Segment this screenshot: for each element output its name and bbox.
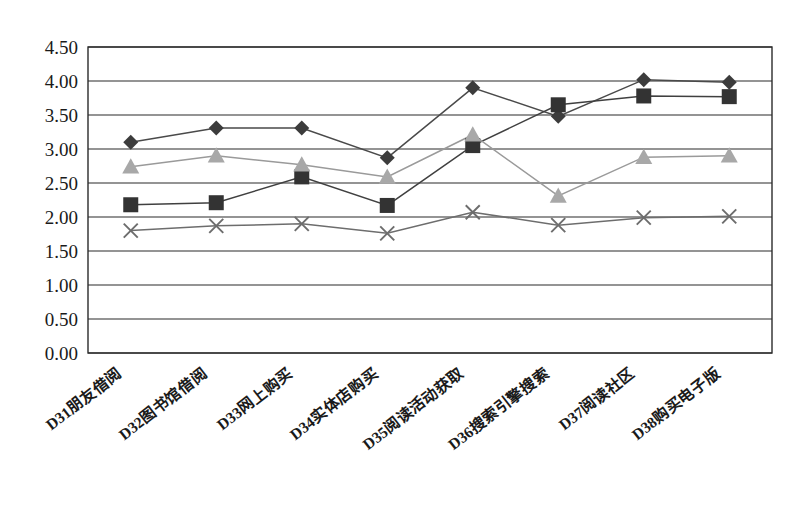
y-tick-label: 4.50 — [45, 37, 78, 58]
data-point-triangle-4 — [464, 126, 481, 141]
data-point-square-3 — [380, 198, 395, 213]
y-axis-tick-labels: 0.000.501.001.502.002.503.003.504.004.50 — [45, 37, 78, 364]
y-tick-label: 1.00 — [45, 275, 78, 296]
data-point-triangle-6 — [635, 149, 652, 164]
data-point-square-5 — [551, 97, 566, 112]
data-point-square-6 — [636, 88, 651, 103]
data-point-triangle-7 — [721, 147, 738, 162]
data-point-triangle-5 — [550, 187, 567, 202]
data-point-diamond-0 — [123, 135, 138, 150]
x-tick-label-6: D37阅读社区 — [555, 363, 638, 433]
x-tick-label-1: D32图书馆借阅 — [115, 363, 210, 443]
x-tick-label-2: D33网上购买 — [213, 363, 296, 433]
data-point-diamond-7 — [722, 75, 737, 90]
y-tick-label: 2.00 — [45, 207, 78, 228]
data-point-square-1 — [209, 195, 224, 210]
y-tick-label: 3.00 — [45, 139, 78, 160]
x-axis-tick-labels: D31朋友借阅D32图书馆借阅D33网上购买D34实体店购买D35阅读活动获取D… — [42, 363, 723, 453]
line-chart: 0.000.501.001.502.002.503.003.504.004.50… — [0, 0, 805, 525]
data-point-diamond-2 — [294, 120, 309, 135]
x-tick-label-3: D34实体店购买 — [286, 363, 381, 443]
y-tick-label: 0.50 — [45, 309, 78, 330]
x-tick-label-7: D38购买电子版 — [628, 363, 723, 443]
data-point-square-2 — [294, 169, 309, 184]
data-point-square-7 — [722, 89, 737, 104]
y-tick-label: 2.50 — [45, 173, 78, 194]
series-line-series-2 — [131, 96, 730, 205]
plot-area-frame — [88, 47, 772, 353]
data-point-triangle-1 — [208, 147, 225, 162]
chart-container: 0.000.501.001.502.002.503.003.504.004.50… — [0, 0, 805, 525]
gridlines — [88, 47, 772, 353]
data-point-diamond-1 — [209, 120, 224, 135]
y-tick-label: 0.00 — [45, 343, 78, 364]
y-tick-label: 4.00 — [45, 71, 78, 92]
data-point-square-0 — [123, 197, 138, 212]
y-tick-label: 3.50 — [45, 105, 78, 126]
y-tick-label: 1.50 — [45, 241, 78, 262]
data-point-diamond-6 — [636, 72, 651, 87]
x-tick-label-0: D31朋友借阅 — [42, 363, 125, 433]
series-line-series-3 — [131, 135, 730, 196]
